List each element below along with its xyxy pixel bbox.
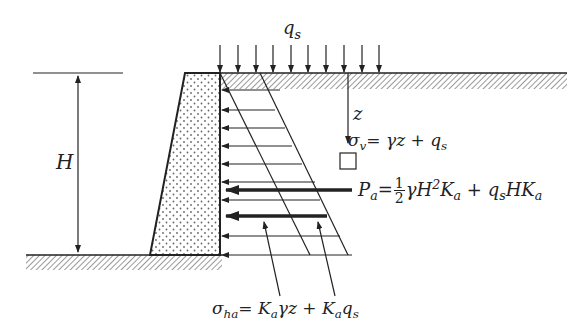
pressure-arrows — [222, 90, 352, 255]
retaining-wall-diagram — [0, 0, 570, 330]
backfill-surface — [220, 73, 567, 89]
vertical-stress-formula: σv= γz + qs — [348, 130, 447, 153]
base-ground — [26, 255, 222, 270]
active-force-formula: Pa=12γH2Ka + qsHKa — [358, 176, 542, 205]
surcharge-arrows — [220, 45, 379, 72]
depth-label: z — [353, 103, 362, 124]
horizontal-stress-formula: σha= Kaγz + Kaqs — [212, 298, 359, 321]
height-label: H — [56, 150, 73, 174]
retaining-wall — [150, 73, 220, 255]
surcharge-label: qs — [283, 17, 301, 42]
height-dimension — [33, 73, 123, 252]
